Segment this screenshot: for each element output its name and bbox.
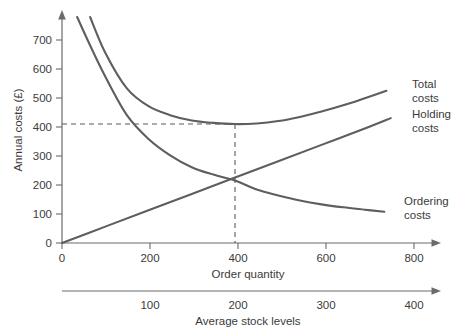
- y-axis-arrow-icon: [58, 10, 66, 20]
- x-tick-label-400: 400: [228, 252, 247, 264]
- x-tick-label-200: 200: [140, 252, 159, 264]
- y-tick-label-300: 300: [33, 150, 52, 162]
- series-line-total-costs: [90, 17, 386, 124]
- secondary-x-axis-title: Average stock levels: [195, 315, 301, 327]
- secondary-x-axis-arrow-icon: [432, 287, 442, 295]
- x-tick-label-0: 0: [59, 252, 65, 264]
- y-axis-group: 700 600 500 400 300 200 100 0 Annual cos…: [12, 10, 66, 249]
- series-label-total-costs-line1: Total: [412, 78, 436, 90]
- x-axis-group: 0 200 400 600 800 Order quantity: [59, 239, 441, 280]
- secondary-x-tick-label-300: 300: [316, 299, 335, 311]
- series-label-holding-costs-line1: Holding: [412, 108, 451, 120]
- secondary-x-tick-label-400: 400: [404, 299, 423, 311]
- y-tick-label-0: 0: [46, 237, 52, 249]
- secondary-x-tick-label-100: 100: [140, 299, 159, 311]
- x-axis-title: Order quantity: [212, 268, 285, 280]
- optimum-guides: [62, 124, 235, 243]
- eoq-cost-chart: 700 600 500 400 300 200 100 0 Annual cos…: [0, 0, 457, 330]
- chart-container: 700 600 500 400 300 200 100 0 Annual cos…: [0, 0, 457, 330]
- y-tick-label-400: 400: [33, 121, 52, 133]
- series-line-holding-costs: [62, 118, 391, 243]
- y-tick-label-200: 200: [33, 179, 52, 191]
- series-label-ordering-costs-line1: Ordering: [404, 195, 449, 207]
- series-label-total-costs-line2: costs: [412, 92, 439, 104]
- x-axis-arrow-icon: [432, 239, 442, 247]
- series-line-ordering-costs: [77, 17, 384, 212]
- series-label-total-costs-group: Total costs: [412, 78, 439, 104]
- x-tick-label-600: 600: [316, 252, 335, 264]
- y-tick-label-700: 700: [33, 34, 52, 46]
- secondary-x-tick-label-200: 200: [228, 299, 247, 311]
- secondary-x-axis-group: 100 200 300 400 Average stock levels: [62, 287, 441, 327]
- series-label-ordering-costs-group: Ordering costs: [404, 195, 449, 221]
- y-tick-label-600: 600: [33, 63, 52, 75]
- x-tick-label-800: 800: [404, 252, 423, 264]
- y-tick-label-500: 500: [33, 92, 52, 104]
- series-label-holding-costs-line2: costs: [412, 122, 439, 134]
- series-label-holding-costs-group: Holding costs: [412, 108, 451, 134]
- y-tick-label-100: 100: [33, 208, 52, 220]
- y-axis-title: Annual costs (£): [12, 88, 24, 171]
- series-label-ordering-costs-line2: costs: [404, 209, 431, 221]
